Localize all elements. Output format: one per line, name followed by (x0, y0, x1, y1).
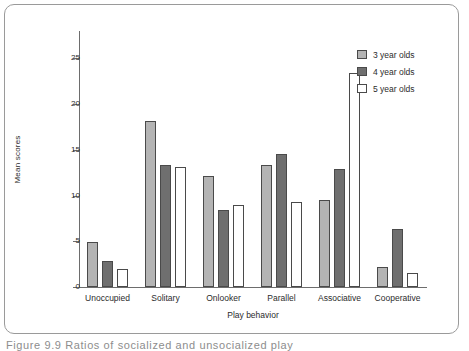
bar (319, 200, 330, 287)
legend-item-label: 3 year olds (373, 50, 415, 60)
bar (160, 165, 171, 288)
bar-group (319, 31, 360, 287)
bar-group (145, 31, 186, 287)
legend-item: 4 year olds (357, 64, 455, 79)
bar (407, 273, 418, 287)
y-axis-tick-label: 10 (54, 192, 80, 200)
y-axis-tick-label: 25 (54, 54, 80, 62)
y-axis-tick-label: 20 (54, 100, 80, 108)
bar-group (203, 31, 244, 287)
bar (218, 210, 229, 287)
bar (392, 229, 403, 288)
y-axis-tick-label-wrap: 5 (41, 241, 80, 242)
y-axis-tick-label-wrap: 0 (41, 287, 80, 288)
bar (276, 154, 287, 287)
bar (203, 176, 214, 287)
y-axis-tick-label-wrap: 10 (41, 196, 80, 197)
bar (145, 121, 156, 287)
bar (334, 169, 345, 287)
y-axis-title: Mean scores (13, 124, 22, 196)
bar (175, 167, 186, 287)
bar (233, 205, 244, 287)
bar (377, 267, 388, 287)
y-axis-tick-label-wrap: 25 (41, 58, 80, 59)
x-axis-title: Play behavior (79, 310, 427, 320)
legend-item-label: 4 year olds (373, 67, 415, 77)
x-axis-category-label: Cooperative (358, 293, 438, 303)
y-axis-tick-label: 5 (54, 237, 80, 245)
bar (291, 202, 302, 287)
light-gray-swatch-icon (357, 50, 367, 59)
figure-frame: 0510152025 Mean scores UnoccupiedSolitar… (4, 4, 459, 334)
white-swatch-icon (357, 84, 367, 93)
bar (87, 242, 98, 287)
chart-legend: 3 year olds4 year olds5 year olds (357, 47, 455, 98)
bar (117, 269, 128, 287)
legend-item: 5 year olds (357, 81, 455, 96)
y-axis-tick-label: 15 (54, 146, 80, 154)
bar-group (261, 31, 302, 287)
bar-group (87, 31, 128, 287)
bar (349, 73, 360, 287)
y-axis-tick-label-wrap: 15 (41, 150, 80, 151)
x-axis-line (79, 287, 427, 288)
bar (261, 165, 272, 288)
y-axis-tick-label-wrap: 20 (41, 104, 80, 105)
y-axis-tick-label: 0 (54, 283, 80, 291)
figure-caption: Figure 9.9 Ratios of socialized and unso… (6, 339, 293, 351)
legend-item: 3 year olds (357, 47, 455, 62)
chart-plot-area: 0510152025 Mean scores UnoccupiedSolitar… (5, 5, 460, 335)
legend-item-label: 5 year olds (373, 84, 415, 94)
dark-gray-swatch-icon (357, 67, 367, 76)
bar (102, 261, 113, 287)
